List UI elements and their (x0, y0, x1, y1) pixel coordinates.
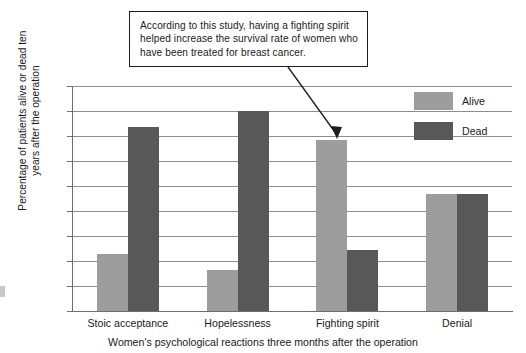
y-tick-mark (67, 111, 73, 112)
bar-denial-alive (426, 194, 457, 312)
legend-label-alive: Alive (462, 95, 485, 107)
category-label-stoic-acceptance: Stoic acceptance (73, 317, 183, 329)
bar-hopelessness-dead (238, 111, 269, 311)
y-tick-mark (67, 211, 73, 212)
category-label-fighting-spirit: Fighting spirit (293, 317, 403, 329)
annotation-callout-text: According to this study, having a fighti… (140, 19, 358, 59)
y-tick-mark (67, 161, 73, 162)
x-axis-line (72, 311, 513, 312)
y-axis-title: Percentage of patients alive or dead ten… (17, 21, 42, 221)
category-label-hopelessness: Hopelessness (183, 317, 293, 329)
legend-item-alive: Alive (414, 88, 514, 113)
y-tick-mark (67, 286, 73, 287)
bar-stoic-acceptance-alive (97, 254, 128, 312)
legend-item-dead: Dead (414, 118, 514, 143)
legend-swatch-alive-icon (414, 92, 453, 110)
y-tick-mark (67, 261, 73, 262)
annotation-arrow-icon (280, 60, 350, 145)
chart-legend: Alive Dead (414, 88, 514, 148)
bar-fighting-spirit-alive (316, 140, 347, 311)
chart-figure: According to this study, having a fighti… (0, 0, 526, 353)
y-tick-mark (67, 136, 73, 137)
x-axis-title: Women's psychological reactions three mo… (0, 336, 526, 348)
legend-swatch-dead-icon (414, 122, 453, 140)
bar-stoic-acceptance-dead (128, 127, 159, 311)
page-edge-mark (0, 286, 5, 297)
y-tick-mark (67, 186, 73, 187)
y-tick-mark (67, 86, 73, 87)
bar-denial-dead (457, 194, 488, 312)
bar-fighting-spirit-dead (347, 250, 378, 311)
legend-label-dead: Dead (462, 125, 487, 137)
bar-hopelessness-alive (207, 270, 238, 311)
annotation-callout: According to this study, having a fighti… (129, 11, 368, 67)
category-label-denial: Denial (402, 317, 512, 329)
y-tick-mark (67, 236, 73, 237)
y-tick-mark (67, 311, 73, 312)
